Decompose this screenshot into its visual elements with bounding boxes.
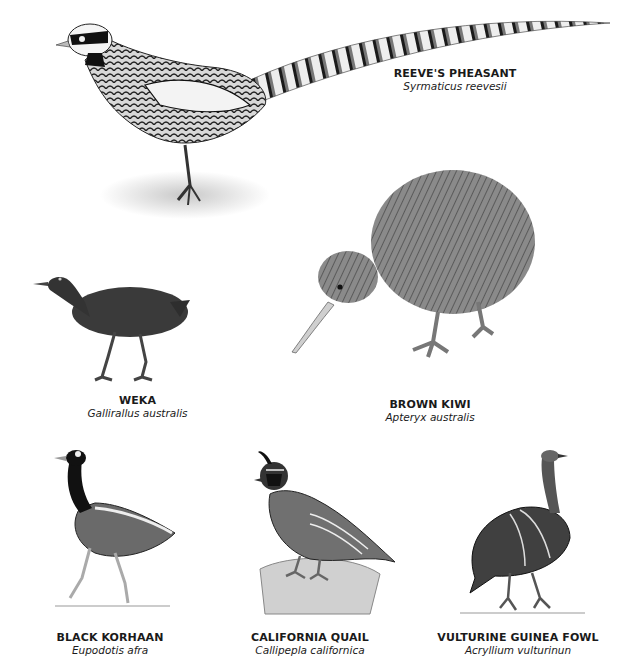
bird-caption-california-quail: CALIFORNIA QUAIL Callipepla californica [240,631,380,656]
brown-kiwi-illustration [288,162,543,377]
scientific-name: Eupodotis afra [40,644,180,656]
bird-caption-weka: WEKA Gallirallus australis [55,394,220,420]
weka-illustration [30,262,195,387]
vulturine-guinea-fowl-illustration [460,448,585,618]
bird-caption-brown-kiwi: BROWN KIWI Apteryx australis [355,398,505,424]
scientific-name: Gallirallus australis [55,407,220,420]
common-name: VULTURINE GUINEA FOWL [433,631,603,644]
scientific-name: Apteryx australis [355,411,505,424]
scientific-name: Callipepla californica [240,644,380,656]
scientific-name: Syrmaticus reevesii [380,80,530,93]
black-korhaan-illustration [50,448,180,613]
bird-caption-vulturine-guinea-fowl: VULTURINE GUINEA FOWL Acryllium vulturin… [433,631,603,656]
common-name: BROWN KIWI [355,398,505,411]
common-name: BLACK KORHAAN [40,631,180,644]
common-name: REEVE'S PHEASANT [380,67,530,80]
common-name: CALIFORNIA QUAIL [240,631,380,644]
bird-caption-black-korhaan: BLACK KORHAAN Eupodotis afra [40,631,180,656]
common-name: WEKA [55,394,220,407]
california-quail-illustration [250,444,400,619]
scientific-name: Acryllium vulturinun [433,644,603,656]
bird-caption-reeves-pheasant: REEVE'S PHEASANT Syrmaticus reevesii [380,67,530,93]
